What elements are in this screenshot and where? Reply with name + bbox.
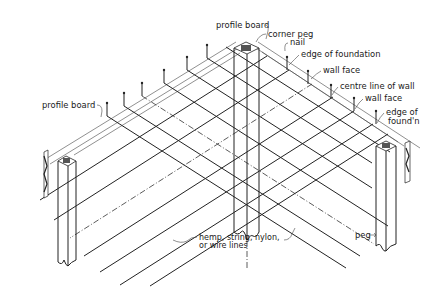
label-edge-of-foundn-2: found'n [388,116,420,126]
right-peg [376,141,410,251]
label-wall-face-2: wall face [365,93,402,103]
label-centre-line-of-wall: centre line of wall [340,81,415,91]
label-nail: nail [290,37,305,47]
strings-from-right-board [40,56,388,286]
label-edge-of-foundation: edge of foundation [301,49,381,59]
nail-icon [163,69,165,83]
label-wall-face-1: wall face [323,65,360,75]
left-peg [44,150,76,266]
nail-icon [186,56,188,70]
label-profile-board-left: profile board [42,100,95,110]
nail-icon [141,82,143,96]
nail-icon [330,84,332,98]
nail-icon [206,44,208,58]
nail-icon [106,102,108,116]
label-profile-board-top: profile board [216,20,269,30]
nail-icon [375,110,377,124]
label-peg: peg [355,230,371,240]
label-lines-2: or wire lines [199,241,248,250]
setting-out-diagram: profile board corner peg nail edge of fo… [0,0,444,295]
nail-icon [123,92,125,106]
left-nails [106,44,208,116]
